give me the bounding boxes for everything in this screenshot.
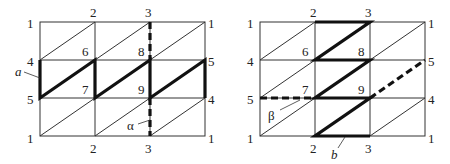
node-label: 2 [310,5,317,20]
annotation-alpha: α [127,118,134,133]
node-label: 8 [138,44,145,59]
node-label: 8 [358,44,365,59]
node-label: 7 [302,82,309,97]
node-label: 6 [82,44,89,59]
node-label: 5 [428,54,435,69]
node-label: 1 [208,131,215,146]
node-label: 1 [247,131,254,146]
node-label: 5 [208,54,215,69]
node-label: 1 [428,131,435,146]
node-label: 1 [247,16,254,31]
node-label: 3 [365,141,372,156]
annotation-b: b [331,147,338,162]
leader-a [24,72,40,78]
left-panel: 1 2 3 1 4 6 8 5 5 7 9 4 1 2 3 1 a α [15,5,215,156]
node-label: 3 [145,5,152,20]
node-label: 4 [428,92,435,107]
node-label: 2 [310,141,317,156]
node-label: 1 [27,131,34,146]
right-path-b [315,22,370,136]
node-label: 4 [247,54,254,69]
node-label: 2 [90,5,97,20]
leader-alpha [138,120,150,124]
node-label: 1 [27,16,34,31]
node-label: 7 [82,82,89,97]
node-label: 3 [365,5,372,20]
figure-canvas: 1 2 3 1 4 6 8 5 5 7 9 4 1 2 3 1 a α [0,0,450,164]
node-label: 5 [247,92,254,107]
node-label: 6 [302,44,309,59]
leader-beta [280,100,300,110]
node-label: 4 [208,92,215,107]
node-label: 5 [27,92,34,107]
right-panel: 1 2 3 1 4 6 8 5 5 7 9 4 1 2 3 1 β b [247,5,435,162]
leader-b [338,137,345,148]
node-label: 3 [145,141,152,156]
node-label: 4 [27,54,34,69]
left-path-a [40,60,205,98]
node-label: 9 [138,82,145,97]
node-label: 1 [208,16,215,31]
node-label: 9 [358,82,365,97]
annotation-beta: β [268,108,275,123]
node-label: 2 [90,141,97,156]
annotation-a: a [15,64,22,79]
node-label: 1 [428,16,435,31]
